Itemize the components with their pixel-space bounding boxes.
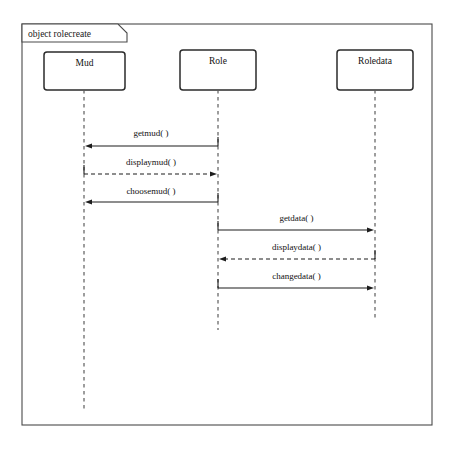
lifeline-label-roledata: Roledata xyxy=(358,56,393,66)
message-label-m1: getmud( ) xyxy=(133,128,168,138)
sequence-diagram: object rolecreate MudRoleRoledata getmud… xyxy=(0,0,455,450)
message-label-m2: displaymud( ) xyxy=(126,157,176,167)
lifeline-label-role: Role xyxy=(209,56,227,66)
message-label-m6: changedata( ) xyxy=(272,271,321,281)
message-label-m3: choosemud( ) xyxy=(126,186,175,196)
lifeline-label-mud: Mud xyxy=(76,58,94,68)
message-label-m5: displaydata( ) xyxy=(272,242,321,252)
frame-label: object rolecreate xyxy=(28,29,91,39)
message-label-m4: getdata( ) xyxy=(279,213,313,223)
